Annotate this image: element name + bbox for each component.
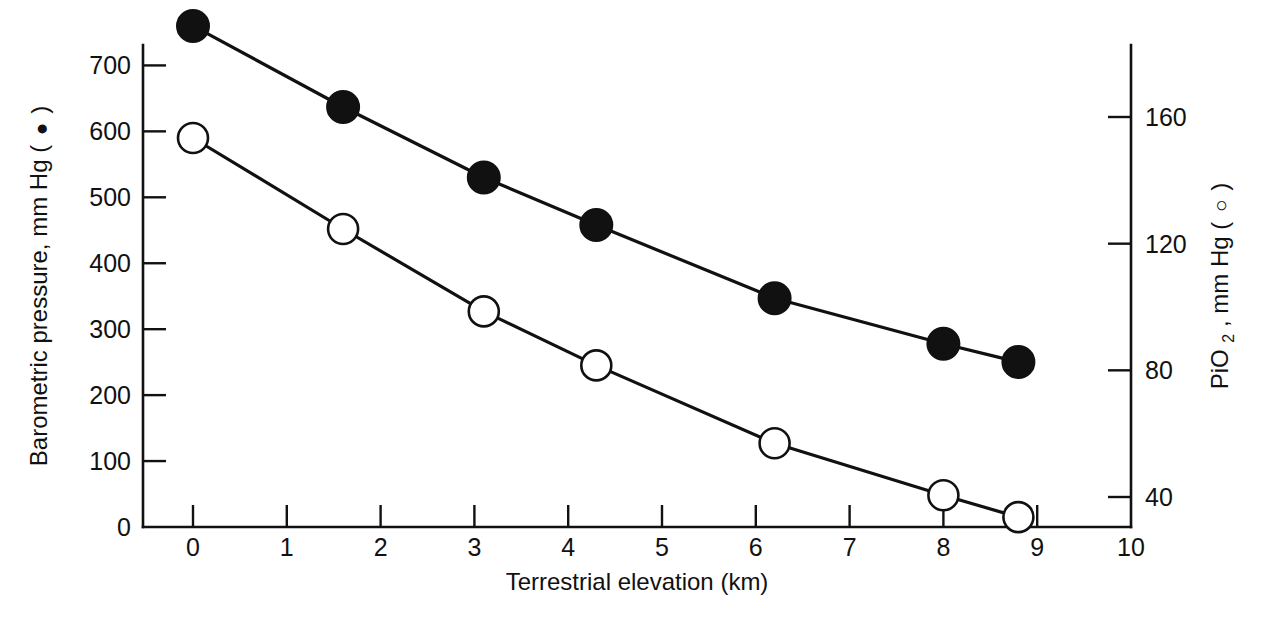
filled-circle-legend-icon: ● bbox=[29, 122, 52, 135]
y-right-axis-subscript: 2 bbox=[1220, 334, 1237, 343]
data-point-marker bbox=[1003, 502, 1033, 532]
data-point-marker bbox=[328, 214, 358, 244]
x-axis-tick-label: 4 bbox=[561, 533, 575, 561]
y-right-axis-title-text: PiO bbox=[1206, 349, 1233, 389]
left-axis-tick-label: 300 bbox=[89, 315, 131, 343]
x-axis-tick-label: 1 bbox=[280, 533, 294, 561]
right-axis-tick-label: 120 bbox=[1145, 230, 1187, 258]
left-axis-tick-label: 200 bbox=[89, 381, 131, 409]
x-axis-tick-label: 8 bbox=[936, 533, 950, 561]
x-axis-tick-label: 2 bbox=[374, 533, 388, 561]
data-point-marker bbox=[759, 282, 791, 314]
x-axis-tick-label: 6 bbox=[749, 533, 763, 561]
left-axis-tick-label: 500 bbox=[89, 183, 131, 211]
x-axis-tick-label: 3 bbox=[467, 533, 481, 561]
left-axis-tick-label: 100 bbox=[89, 447, 131, 475]
y-right-axis-title: PiO 2 , mm Hg ( ○ ) bbox=[1206, 183, 1239, 390]
left-axis-tick-label: 600 bbox=[89, 117, 131, 145]
right-axis-tick-label: 160 bbox=[1145, 103, 1187, 131]
open-circle-legend-icon: ○ bbox=[1209, 199, 1232, 212]
data-point-marker bbox=[469, 296, 499, 326]
x-axis-tick-label: 9 bbox=[1030, 533, 1044, 561]
series-polyline bbox=[193, 138, 1018, 517]
x-axis-tick-label: 10 bbox=[1117, 533, 1145, 561]
x-axis-tick-label: 7 bbox=[843, 533, 857, 561]
data-point-marker bbox=[468, 162, 500, 194]
series-polyline bbox=[193, 26, 1018, 362]
right-axis-tick-label: 40 bbox=[1145, 483, 1173, 511]
data-point-marker bbox=[177, 10, 209, 42]
data-point-marker bbox=[580, 209, 612, 241]
data-point-marker bbox=[581, 350, 611, 380]
y-left-axis-title-tail: ) bbox=[26, 106, 53, 114]
data-point-marker bbox=[1002, 346, 1034, 378]
y-right-axis-title-end: ) bbox=[1206, 183, 1233, 191]
y-left-axis-title-text: Barometric pressure, mm Hg ( bbox=[25, 145, 52, 466]
left-axis bbox=[143, 45, 1131, 527]
chart-figure: 0100200300400500600700 012345678910 4080… bbox=[0, 0, 1272, 632]
right-axis-tick-label: 80 bbox=[1145, 356, 1173, 384]
y-left-axis-title: Barometric pressure, mm Hg ( ● ) bbox=[25, 106, 53, 466]
left-axis-tick-label: 0 bbox=[117, 513, 131, 541]
x-axis-tick-label: 0 bbox=[186, 533, 200, 561]
data-point-marker bbox=[178, 123, 208, 153]
left-axis-tick-label: 700 bbox=[89, 51, 131, 79]
data-point-marker bbox=[327, 91, 359, 123]
series-barometric-pressure bbox=[177, 10, 1034, 378]
chart-canvas: 0100200300400500600700 012345678910 4080… bbox=[0, 0, 1272, 632]
data-point-marker bbox=[927, 328, 959, 360]
left-axis-tick-label: 400 bbox=[89, 249, 131, 277]
x-axis-title: Terrestrial elevation (km) bbox=[506, 568, 769, 595]
y-right-axis-title-tail: , mm Hg ( bbox=[1206, 222, 1233, 327]
left-axis-ticks: 0100200300400500600700 bbox=[89, 51, 166, 541]
data-point-marker bbox=[760, 428, 790, 458]
x-axis-tick-label: 5 bbox=[655, 533, 669, 561]
y-right-axis-title-group: PiO 2 , mm Hg ( ○ ) bbox=[1206, 183, 1239, 390]
y-left-axis-title-group: Barometric pressure, mm Hg ( ● ) bbox=[25, 106, 53, 466]
data-point-marker bbox=[928, 480, 958, 510]
right-axis-ticks: 4080120160 bbox=[1108, 103, 1187, 511]
series-pio2 bbox=[178, 123, 1033, 532]
